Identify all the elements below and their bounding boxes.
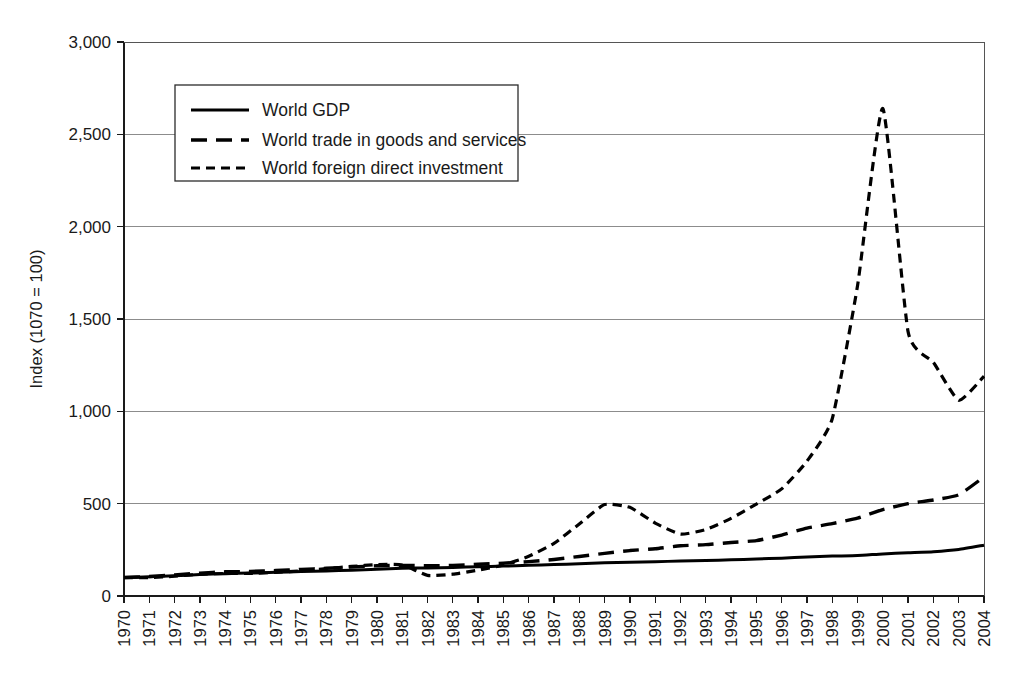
x-tick-label: 1978	[317, 610, 335, 647]
y-tick-label: 1,000	[68, 402, 111, 421]
line-chart: 05001,0001,5002,0002,5003,000 1970197119…	[0, 0, 1016, 680]
x-tick-marks-group	[124, 596, 984, 603]
x-tick-label: 1988	[570, 610, 588, 647]
x-tick-label: 1987	[545, 610, 563, 647]
x-tick-label: 1971	[140, 610, 158, 647]
x-tick-label: 1994	[722, 610, 740, 647]
x-tick-label: 1977	[292, 610, 310, 647]
x-tick-label: 1999	[849, 610, 867, 647]
x-tick-label: 1976	[267, 610, 285, 647]
x-tick-label: 1979	[343, 610, 361, 647]
x-tick-label: 2000	[874, 610, 892, 647]
chart-container: 05001,0001,5002,0002,5003,000 1970197119…	[0, 0, 1016, 680]
x-tick-labels-group: 1970197119721973197419751976197719781979…	[115, 610, 993, 647]
y-axis-title-group: Index (1070 = 100)	[27, 250, 45, 389]
chart-legend: World GDPWorld trade in goods and servic…	[175, 85, 527, 181]
x-tick-label: 1970	[115, 610, 133, 647]
series-line-2	[124, 477, 984, 578]
x-tick-label: 1980	[368, 610, 386, 647]
x-tick-label: 1975	[241, 610, 259, 647]
x-tick-label: 1996	[773, 610, 791, 647]
x-tick-label: 1993	[697, 610, 715, 647]
y-tick-label: 3,000	[68, 33, 111, 52]
legend-label-1: World GDP	[262, 100, 350, 120]
x-tick-label: 1972	[166, 610, 184, 647]
y-tick-label: 500	[83, 495, 111, 514]
x-tick-label: 1998	[823, 610, 841, 647]
x-tick-label: 1973	[191, 610, 209, 647]
x-tick-label: 1982	[419, 610, 437, 647]
y-tick-label: 2,500	[68, 125, 111, 144]
legend-label-3: World foreign direct investment	[262, 158, 503, 178]
y-tick-labels-group: 05001,0001,5002,0002,5003,000	[68, 33, 111, 606]
legend-label-2: World trade in goods and services	[262, 130, 527, 150]
x-tick-label: 1984	[469, 610, 487, 647]
x-tick-label: 1989	[596, 610, 614, 647]
x-tick-label: 2003	[950, 610, 968, 647]
x-tick-label: 1974	[216, 610, 234, 647]
y-tick-label: 2,000	[68, 218, 111, 237]
x-tick-label: 2004	[975, 610, 993, 647]
x-tick-label: 1992	[671, 610, 689, 647]
x-tick-label: 2002	[924, 610, 942, 647]
y-tick-label: 1,500	[68, 310, 111, 329]
x-tick-label: 1990	[621, 610, 639, 647]
x-tick-label: 2001	[899, 610, 917, 647]
x-tick-label: 1997	[798, 610, 816, 647]
y-tick-marks-group	[117, 42, 124, 596]
x-tick-label: 1986	[520, 610, 538, 647]
x-tick-label: 1981	[393, 610, 411, 647]
x-tick-label: 1985	[494, 610, 512, 647]
x-tick-label: 1983	[444, 610, 462, 647]
y-tick-label: 0	[102, 587, 111, 606]
x-tick-label: 1991	[646, 610, 664, 647]
x-tick-label: 1995	[747, 610, 765, 647]
y-axis-title: Index (1070 = 100)	[27, 250, 45, 389]
